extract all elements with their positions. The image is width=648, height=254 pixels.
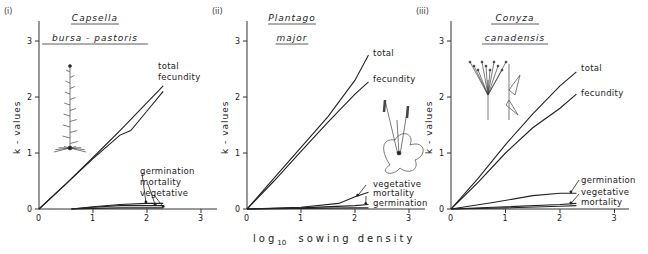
label-arrow bbox=[571, 194, 579, 204]
x-tick-label: 3 bbox=[198, 214, 203, 223]
series-label-mortality: mortality bbox=[581, 197, 622, 207]
x-tick-label: 1 bbox=[298, 214, 303, 223]
y-tick-label: 3 bbox=[27, 37, 32, 46]
figure-canvas: 01230123(i)k - valuesCapsellabursa - pas… bbox=[0, 0, 648, 254]
y-tick-label: 0 bbox=[235, 205, 240, 214]
y-tick-label: 1 bbox=[439, 149, 444, 158]
series-label-fecundity: fecundity bbox=[581, 88, 624, 98]
panel-1: 01230123(i)k - valuesCapsellabursa - pas… bbox=[4, 7, 217, 223]
x-tick-label: 3 bbox=[406, 214, 411, 223]
series-line-total bbox=[247, 55, 369, 209]
y-axis-label: k - values bbox=[424, 101, 434, 154]
x-axis-label: log10 sowing density bbox=[253, 233, 415, 247]
series-label-fecundity: fecundity bbox=[373, 74, 416, 84]
species-name: Conyza bbox=[495, 13, 534, 23]
x-tick-label: 3 bbox=[612, 214, 617, 223]
series-label-germination: germination bbox=[140, 166, 195, 176]
y-axis-label: k - values bbox=[12, 101, 22, 154]
series-label-fecundity: fecundity bbox=[158, 72, 201, 82]
series-label-vegetative: vegetative bbox=[581, 187, 629, 197]
series-label-total: total bbox=[373, 48, 394, 58]
y-tick-label: 1 bbox=[235, 149, 240, 158]
x-tick-label: 0 bbox=[448, 214, 453, 223]
y-axis-label: k - values bbox=[220, 101, 230, 154]
x-tick-label: 2 bbox=[352, 214, 357, 223]
capsella-illustration-icon bbox=[54, 65, 86, 153]
species-name: Plantago bbox=[268, 13, 315, 23]
x-tick-label: 2 bbox=[557, 214, 562, 223]
x-tick-label: 1 bbox=[503, 214, 508, 223]
species-name: canadensis bbox=[485, 33, 546, 43]
y-tick-label: 3 bbox=[439, 37, 444, 46]
panel-number: (i) bbox=[4, 7, 12, 16]
series-label-mortality: mortality bbox=[373, 188, 414, 198]
species-name: Capsella bbox=[72, 13, 118, 23]
y-tick-label: 2 bbox=[439, 93, 444, 102]
x-tick-label: 2 bbox=[144, 214, 149, 223]
panel-3: 01230123(iii)k - valuesConyzacanadensist… bbox=[416, 7, 636, 223]
species-name: bursa - pastoris bbox=[52, 33, 138, 43]
panel-number: (iii) bbox=[416, 7, 429, 16]
series-label-germination: germination bbox=[373, 198, 428, 208]
x-tick-label: 0 bbox=[244, 214, 249, 223]
series-label-mortality: mortality bbox=[140, 177, 181, 187]
series-label-total: total bbox=[158, 61, 179, 71]
x-tick-label: 0 bbox=[36, 214, 41, 223]
panel-2: 01230123(ii)k - valuesPlantagomajortotal… bbox=[212, 7, 428, 223]
series-line-vegetative bbox=[247, 192, 369, 209]
species-name: major bbox=[277, 33, 308, 43]
y-tick-label: 0 bbox=[27, 205, 32, 214]
series-label-total: total bbox=[581, 63, 602, 73]
y-tick-label: 2 bbox=[235, 93, 240, 102]
y-tick-label: 0 bbox=[439, 205, 444, 214]
y-tick-label: 1 bbox=[27, 149, 32, 158]
series-line-fecundity bbox=[247, 82, 369, 209]
conyza-illustration-icon bbox=[469, 61, 520, 120]
series-label-germination: germination bbox=[581, 175, 636, 185]
plantago-illustration-icon bbox=[384, 100, 424, 173]
panel-number: (ii) bbox=[212, 7, 223, 16]
series-line-total bbox=[451, 72, 576, 209]
series-label-vegetative: vegetative bbox=[140, 188, 188, 198]
label-arrow bbox=[571, 180, 579, 192]
y-tick-label: 2 bbox=[27, 93, 32, 102]
x-tick-label: 1 bbox=[90, 214, 95, 223]
y-tick-label: 3 bbox=[235, 37, 240, 46]
